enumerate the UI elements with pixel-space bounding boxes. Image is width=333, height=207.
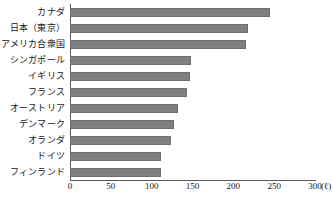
category-label: 日本（東京） — [10, 20, 65, 36]
bar-row — [70, 52, 315, 68]
category-label: オーストリア — [10, 100, 65, 116]
x-tick-label: 50 — [106, 181, 115, 192]
bar — [70, 40, 246, 49]
bar-rows — [70, 4, 315, 180]
category-label: カナダ — [37, 4, 65, 20]
bar-row — [70, 84, 315, 100]
bar-row — [70, 164, 315, 180]
bar — [70, 88, 187, 97]
bar — [70, 24, 248, 33]
x-tick-label: 150 — [186, 181, 200, 192]
bar — [70, 152, 161, 161]
category-label: イギリス — [28, 68, 65, 84]
bar — [70, 104, 178, 113]
x-tick-label: 0 — [68, 181, 73, 192]
bar-row — [70, 4, 315, 20]
bar-row — [70, 36, 315, 52]
category-label: フランス — [28, 84, 65, 100]
bar — [70, 120, 174, 129]
plot-area — [70, 4, 315, 180]
bar — [70, 72, 190, 81]
category-label: ドイツ — [37, 148, 65, 164]
category-label: アメリカ合衆国 — [1, 36, 65, 52]
x-tick-label: 300 — [308, 181, 322, 192]
x-tick-label: 250 — [267, 181, 281, 192]
x-axis-unit-label: (ℓ) — [321, 181, 331, 192]
bar-row — [70, 148, 315, 164]
category-label: オランダ — [28, 132, 65, 148]
bar-row — [70, 20, 315, 36]
bar — [70, 8, 270, 17]
bar-row — [70, 68, 315, 84]
category-label: フィンランド — [10, 164, 65, 180]
bar-row — [70, 116, 315, 132]
x-tick-label: 200 — [227, 181, 241, 192]
bar-row — [70, 100, 315, 116]
category-label: デンマーク — [19, 116, 65, 132]
category-label: シンガポール — [10, 52, 65, 68]
x-tick-label: 100 — [145, 181, 159, 192]
bar — [70, 136, 171, 145]
bar-chart: カナダ日本（東京）アメリカ合衆国シンガポールイギリスフランスオーストリアデンマー… — [0, 0, 333, 207]
bar — [70, 168, 161, 177]
bar — [70, 56, 191, 65]
bar-row — [70, 132, 315, 148]
category-axis-labels: カナダ日本（東京）アメリカ合衆国シンガポールイギリスフランスオーストリアデンマー… — [0, 4, 68, 180]
